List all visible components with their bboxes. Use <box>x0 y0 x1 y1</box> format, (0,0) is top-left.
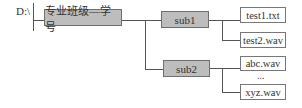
subfolder-label: sub1 <box>175 14 196 26</box>
sub1-out-line <box>209 20 223 21</box>
file-label: test2.wav <box>243 35 283 46</box>
file-node: xyz.wav <box>240 84 286 100</box>
folder-branch-horizontal <box>122 20 146 21</box>
file-node: test2.wav <box>240 32 286 48</box>
root-folder-connector <box>33 20 44 21</box>
sub1-files-vertical <box>222 20 223 41</box>
subfolder-node-sub1: sub1 <box>161 11 209 28</box>
subfolder-node-sub2: sub2 <box>163 60 210 77</box>
sub1-connector <box>145 20 161 21</box>
root-vertical-line <box>33 3 34 31</box>
ellipsis-text: ... <box>257 70 265 81</box>
folder-label: 专业班级—学号 <box>45 2 121 34</box>
sub1-file2-connector <box>222 40 240 41</box>
file-label: test1.txt <box>246 10 280 21</box>
sub1-file1-connector <box>222 20 240 21</box>
sub2-connector <box>145 69 163 70</box>
file-node: test1.txt <box>240 7 286 23</box>
sub2-files-vertical <box>222 68 223 93</box>
folder-branch-vertical <box>145 20 146 70</box>
file-label: abc.wav <box>246 58 281 69</box>
folder-node: 专业班级—学号 <box>44 9 122 26</box>
subfolder-label: sub2 <box>176 63 197 75</box>
root-drive-label: D:\ <box>16 5 30 17</box>
sub2-file1-connector <box>222 68 240 69</box>
file-node: abc.wav <box>240 56 286 71</box>
sub2-file2-connector <box>222 92 240 93</box>
file-label: xyz.wav <box>245 87 280 98</box>
